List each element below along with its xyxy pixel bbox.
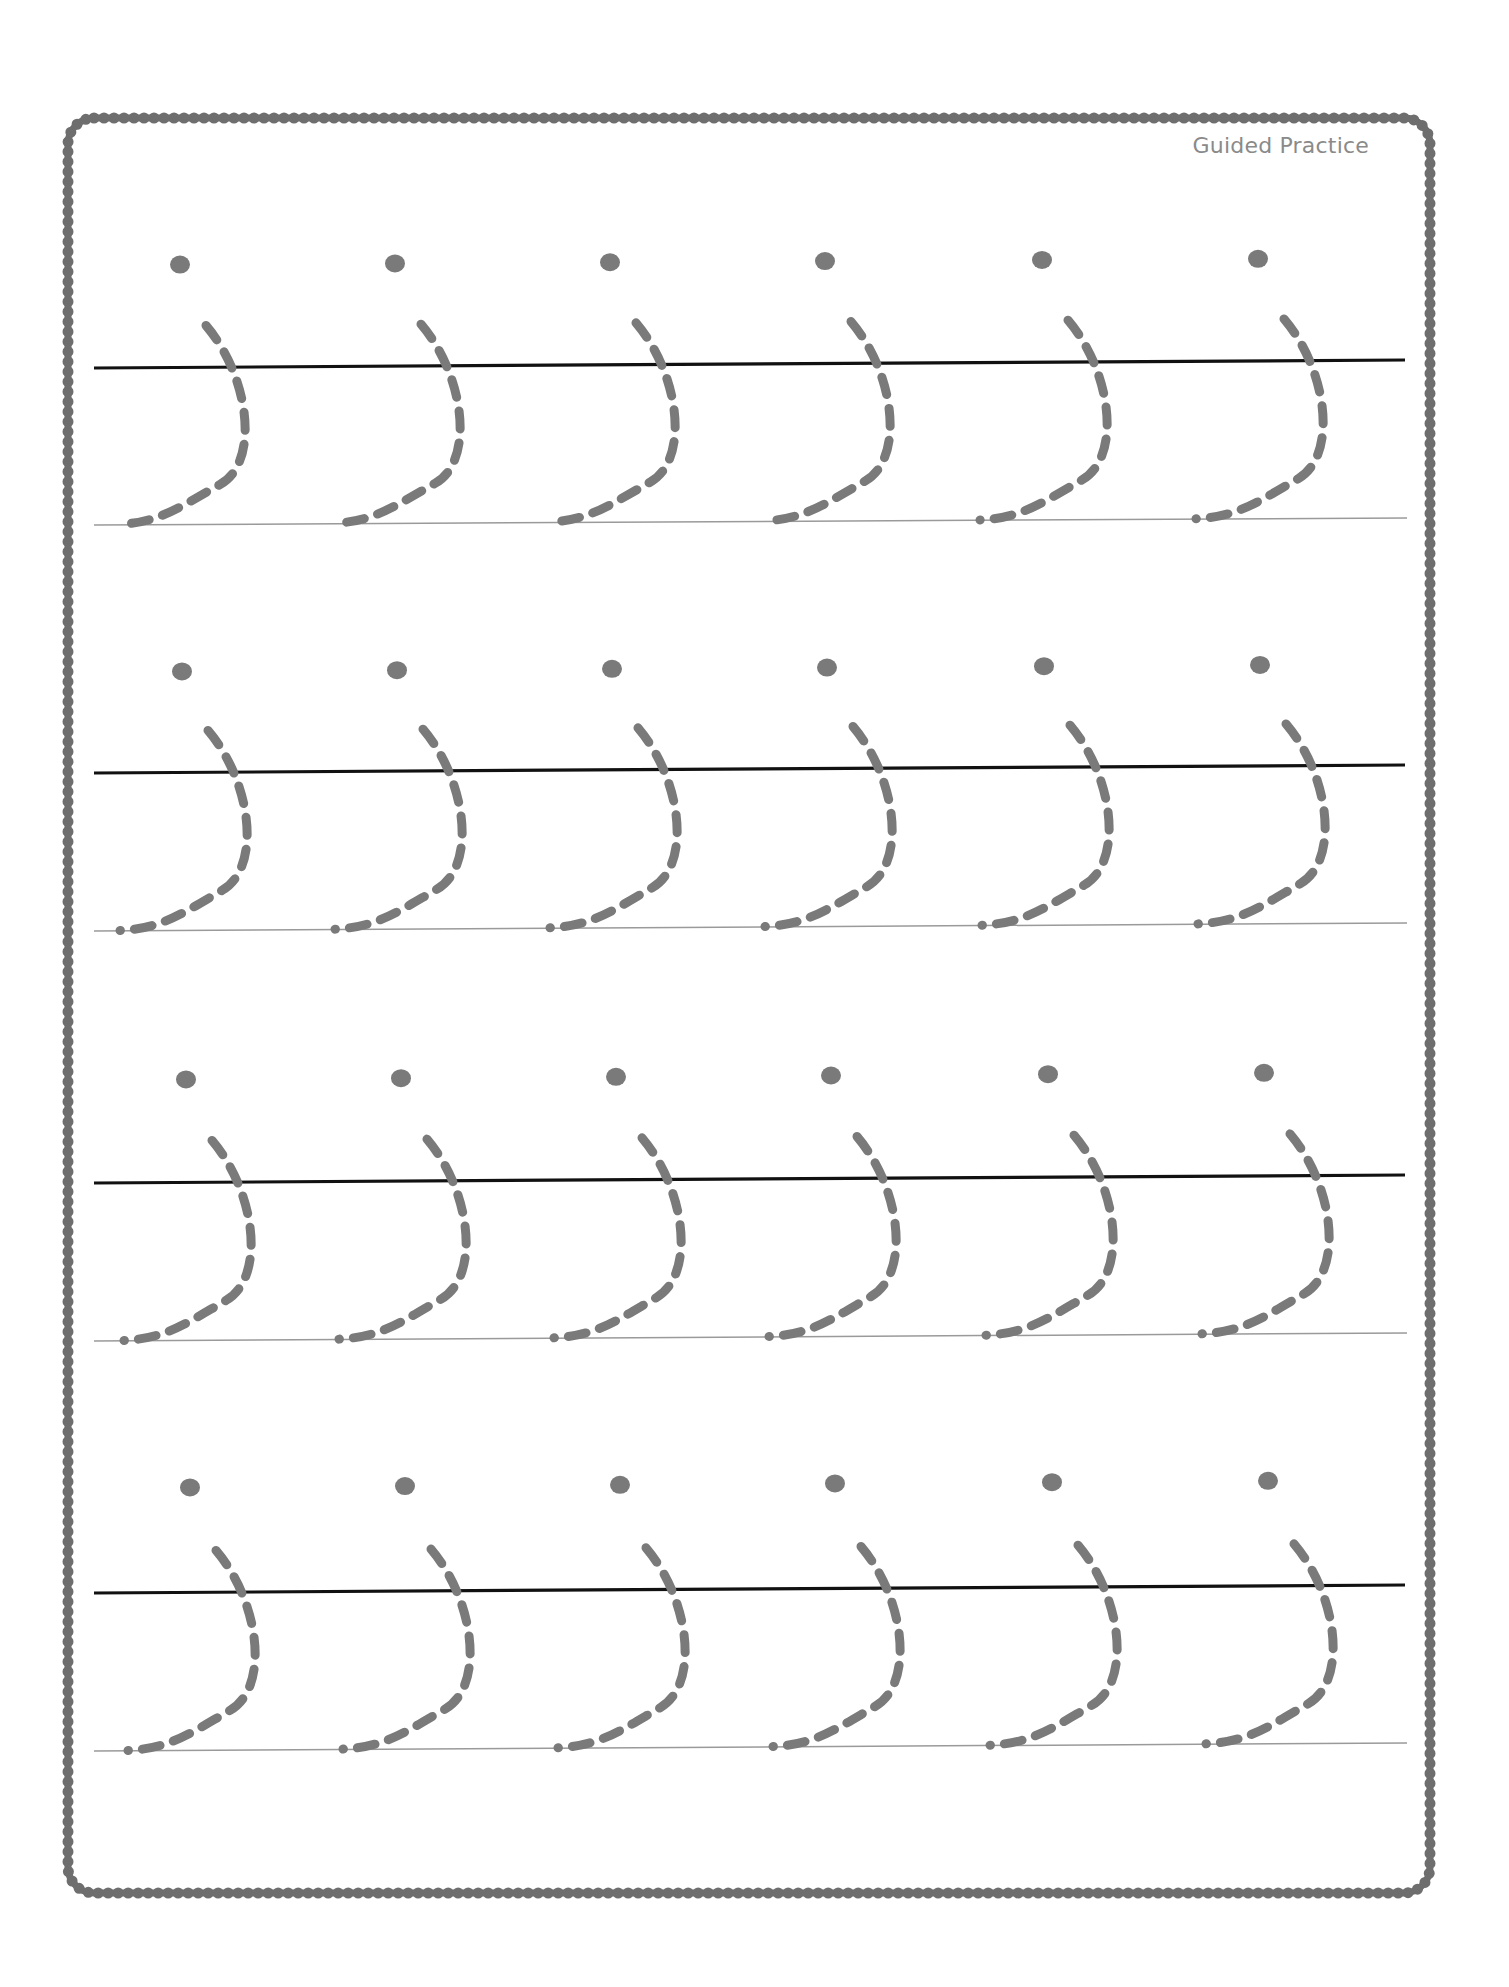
- trace-letter-stroke: [980, 320, 1107, 520]
- trace-dot-icon: [606, 1068, 626, 1086]
- trace-dot-icon: [821, 1067, 841, 1085]
- trace-dot-icon: [815, 252, 835, 270]
- trace-dot-icon: [1258, 1472, 1278, 1490]
- trace-letter-stroke: [339, 1139, 466, 1339]
- trace-dot-icon: [385, 254, 405, 272]
- trace-letter-stroke: [763, 322, 890, 522]
- trace-letter-stroke: [124, 1140, 251, 1340]
- trace-letter-stroke: [1202, 1134, 1329, 1334]
- row-4-top-line: [94, 1585, 1405, 1593]
- page-border: [68, 118, 1430, 1893]
- trace-dot-icon: [1032, 251, 1052, 269]
- trace-letter-stroke: [335, 729, 462, 929]
- trace-letter-stroke: [1206, 1544, 1333, 1744]
- page-border-scallops: [68, 118, 1430, 1893]
- trace-dot-icon: [600, 253, 620, 271]
- trace-dot-icon: [387, 661, 407, 679]
- trace-letter-stroke: [343, 1549, 470, 1749]
- trace-letter-stroke: [554, 1138, 681, 1338]
- trace-dot-icon: [176, 1070, 196, 1088]
- trace-dot-icon: [391, 1069, 411, 1087]
- trace-letter-stroke: [128, 1550, 255, 1750]
- trace-dot-icon: [825, 1474, 845, 1492]
- tracing-canvas: [0, 0, 1509, 1987]
- trace-dot-icon: [1254, 1064, 1274, 1082]
- trace-letter-stroke: [120, 730, 247, 930]
- trace-dot-icon: [610, 1476, 630, 1494]
- trace-letter-stroke: [1198, 724, 1325, 924]
- trace-letter-stroke: [986, 1135, 1113, 1335]
- trace-letter-stroke: [333, 324, 460, 523]
- trace-dot-icon: [180, 1478, 200, 1496]
- trace-letter-stroke: [982, 725, 1109, 925]
- worksheet-page: Guided Practice: [0, 0, 1509, 1987]
- trace-dot-icon: [172, 662, 192, 680]
- row-3-baseline: [94, 1333, 1407, 1341]
- trace-dot-icon: [1042, 1473, 1062, 1491]
- trace-letter-stroke: [769, 1137, 896, 1337]
- trace-dot-icon: [170, 256, 190, 274]
- trace-letter-stroke: [1196, 319, 1323, 519]
- row-3-top-line: [94, 1175, 1405, 1183]
- trace-dot-icon: [602, 660, 622, 678]
- trace-dot-icon: [1038, 1065, 1058, 1083]
- trace-letter-stroke: [990, 1545, 1117, 1745]
- trace-dot-icon: [1248, 250, 1268, 268]
- trace-dot-icon: [817, 659, 837, 677]
- trace-dot-icon: [1250, 656, 1270, 674]
- trace-letter-stroke: [550, 728, 677, 928]
- row-2-top-line: [94, 765, 1405, 773]
- trace-letter-stroke: [548, 323, 675, 522]
- trace-letter-stroke: [765, 727, 892, 927]
- trace-dot-icon: [1034, 657, 1054, 675]
- trace-dot-icon: [395, 1477, 415, 1495]
- trace-letter-stroke: [773, 1546, 900, 1746]
- trace-letter-stroke: [558, 1548, 685, 1748]
- trace-letter-stroke: [118, 325, 245, 524]
- row-1-top-line: [94, 360, 1405, 368]
